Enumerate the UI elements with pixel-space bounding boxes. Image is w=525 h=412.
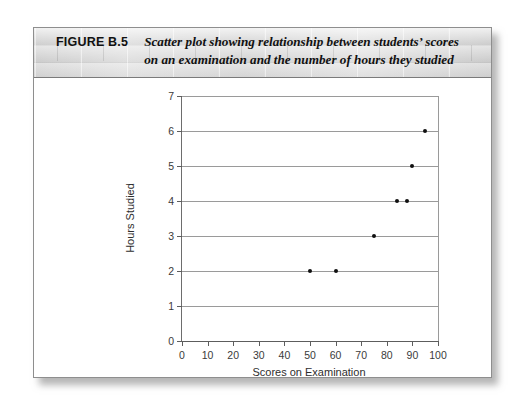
plot-body: 01234567 0102030405060708090100 Scores o… xyxy=(34,78,491,377)
x-tick-mark xyxy=(438,341,439,346)
y-tick-mark xyxy=(177,236,182,237)
x-tick-label: 80 xyxy=(381,349,393,361)
scatter-point xyxy=(423,129,427,133)
figure-card: FIGURE B.5 Scatter plot showing relation… xyxy=(33,27,492,378)
scatter-point xyxy=(410,164,414,168)
x-tick-mark xyxy=(361,341,362,346)
y-tick-label: 4 xyxy=(168,195,174,207)
x-tick-label: 20 xyxy=(227,349,239,361)
x-tick-label: 40 xyxy=(279,349,291,361)
x-tick-mark xyxy=(284,341,285,346)
y-tick-label: 0 xyxy=(168,335,174,347)
y-tick-mark xyxy=(177,131,182,132)
figure-caption-bar: FIGURE B.5 Scatter plot showing relation… xyxy=(34,28,491,78)
x-axis-label: Scores on Examination xyxy=(181,366,437,378)
x-tick-label: 0 xyxy=(179,349,185,361)
y-tick-label: 3 xyxy=(168,230,174,242)
x-tick-mark xyxy=(387,341,388,346)
x-tick-mark xyxy=(182,341,183,346)
x-tick-mark xyxy=(259,341,260,346)
y-tick-label: 1 xyxy=(168,300,174,312)
caption-line-1: Scatter plot showing relationship betwee… xyxy=(144,33,459,51)
gridline xyxy=(182,306,438,307)
y-tick-label: 6 xyxy=(168,125,174,137)
scatter-point xyxy=(308,269,312,273)
y-tick-mark xyxy=(177,166,182,167)
y-axis-label: Hours Studied xyxy=(124,183,136,253)
x-tick-label: 70 xyxy=(355,349,367,361)
x-tick-label: 10 xyxy=(202,349,214,361)
gridline xyxy=(182,166,438,167)
y-tick-label: 7 xyxy=(168,90,174,102)
x-tick-mark xyxy=(310,341,311,346)
x-tick-mark xyxy=(208,341,209,346)
scatter-plot-area: 01234567 0102030405060708090100 xyxy=(181,96,439,341)
scatter-point xyxy=(372,234,376,238)
y-tick-mark xyxy=(177,271,182,272)
gridline xyxy=(182,236,438,237)
y-tick-mark xyxy=(177,96,182,97)
x-tick-label: 60 xyxy=(330,349,342,361)
scatter-point xyxy=(395,199,399,203)
x-tick-label: 50 xyxy=(304,349,316,361)
gridline xyxy=(182,131,438,132)
gridline xyxy=(182,201,438,202)
figure-number-label: FIGURE B.5 xyxy=(34,28,128,49)
x-tick-mark xyxy=(336,341,337,346)
caption-line-2: on an examination and the number of hour… xyxy=(144,51,459,69)
x-tick-label: 30 xyxy=(253,349,265,361)
scatter-point xyxy=(334,269,338,273)
x-tick-mark xyxy=(233,341,234,346)
x-tick-label: 100 xyxy=(429,349,447,361)
y-tick-mark xyxy=(177,201,182,202)
x-tick-label: 90 xyxy=(407,349,419,361)
y-tick-label: 5 xyxy=(168,160,174,172)
x-tick-mark xyxy=(412,341,413,346)
figure-caption-text: Scatter plot showing relationship betwee… xyxy=(128,28,473,69)
gridline xyxy=(182,96,438,97)
scatter-point xyxy=(405,199,409,203)
y-tick-label: 2 xyxy=(168,265,174,277)
y-tick-mark xyxy=(177,306,182,307)
